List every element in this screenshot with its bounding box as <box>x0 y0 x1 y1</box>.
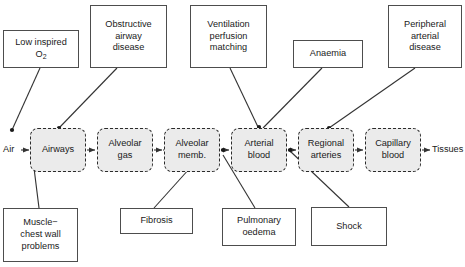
stage-label-regional-arteries-line1: Regional <box>308 138 344 150</box>
stage-label-arterial-blood-line1: Arterial <box>244 138 273 150</box>
cause-link-obstructive-airway-disease-to-airways <box>59 68 117 128</box>
stage-box-alveolar-gas[interactable]: Alveolar gas <box>97 128 153 172</box>
cause-link-peripheral-arterial-disease-to-regional-arteries <box>329 68 415 128</box>
cause-label-shock-line1: Shock <box>336 221 362 233</box>
junction-dot-arterial-blood-left <box>288 148 292 152</box>
cause-label-pulmonary-oedema-line2: oedema <box>237 227 281 239</box>
cause-box-fibrosis[interactable]: Fibrosis <box>120 208 193 234</box>
cause-box-shock[interactable]: Shock <box>311 207 387 246</box>
cause-link-ventilation-perfusion-matching-to-arterial-blood <box>230 68 258 127</box>
cause-box-anaemia[interactable]: Anaemia <box>293 40 363 68</box>
cause-box-pulmonary-oedema[interactable]: Pulmonary oedema <box>222 208 296 246</box>
cause-link-low-inspired-o2-to-air <box>12 68 40 130</box>
stage-label-alveolar-memb-line2: memb. <box>175 150 208 162</box>
cause-label-ventilation-perfusion-matching-line3: matching <box>207 42 249 54</box>
stage-label-airways-line1: Airways <box>42 144 74 156</box>
cause-label-anaemia-line1: Anaemia <box>310 48 346 60</box>
stage-box-airways[interactable]: Airways <box>30 128 86 172</box>
stage-label-regional-arteries-line2: arteries <box>308 150 344 162</box>
junction-dot-air <box>10 128 14 132</box>
cause-link-fibrosis-to-alveolar-memb <box>154 168 190 208</box>
cause-label-obstructive-airway-disease-line3: disease <box>105 42 151 54</box>
cause-label-peripheral-arterial-disease-line2: arterial <box>404 31 446 43</box>
cause-label-peripheral-arterial-disease-line3: disease <box>404 42 446 54</box>
cause-link-anaemia-to-arterial-blood <box>263 68 322 128</box>
o2-subscript: 2 <box>43 53 47 60</box>
cause-box-ventilation-perfusion-matching[interactable]: Ventilation perfusion matching <box>190 5 267 68</box>
cause-label-muscle-chest-wall-problems-line3: problems <box>20 241 60 253</box>
stage-label-capillary-blood-line2: blood <box>375 150 411 162</box>
cause-label-peripheral-arterial-disease-line1: Peripheral <box>404 19 446 31</box>
cause-label-low-inspired-o2-line2: O2 <box>15 49 67 61</box>
cause-label-obstructive-airway-disease-line1: Obstructive <box>105 19 151 31</box>
cause-box-low-inspired-o2[interactable]: Low inspired O2 <box>3 30 79 68</box>
endpoint-label-air: Air <box>3 144 14 154</box>
cause-label-ventilation-perfusion-matching-line1: Ventilation <box>207 19 249 31</box>
stage-box-regional-arteries[interactable]: Regional arteries <box>298 128 354 172</box>
stage-label-alveolar-gas-line2: gas <box>108 150 141 162</box>
cause-box-muscle-chest-wall-problems[interactable]: Muscle− chest wall problems <box>3 208 78 262</box>
cause-label-fibrosis-line1: Fibrosis <box>140 215 172 227</box>
stage-label-alveolar-gas-line1: Alveolar <box>108 138 141 150</box>
cause-label-ventilation-perfusion-matching-line2: perfusion <box>207 31 249 43</box>
cause-label-low-inspired-o2-line1: Low inspired <box>15 37 67 49</box>
cause-label-muscle-chest-wall-problems-line2: chest wall <box>20 229 60 241</box>
diagram-canvas: Air Tissues Airways Alveolar gas Alveola… <box>0 0 465 267</box>
cause-box-obstructive-airway-disease[interactable]: Obstructive airway disease <box>90 5 167 68</box>
stage-box-arterial-blood[interactable]: Arterial blood <box>231 128 287 172</box>
o2-base: O <box>35 49 42 59</box>
stage-label-alveolar-memb-line1: Alveolar <box>175 138 208 150</box>
stage-box-capillary-blood[interactable]: Capillary blood <box>365 128 421 172</box>
junction-dot-alveolar-memb-right <box>221 148 225 152</box>
stage-label-capillary-blood-line1: Capillary <box>375 138 411 150</box>
cause-label-obstructive-airway-disease-line2: airway <box>105 31 151 43</box>
stage-box-alveolar-memb[interactable]: Alveolar memb. <box>164 128 220 172</box>
endpoint-label-tissues: Tissues <box>432 144 463 154</box>
cause-box-peripheral-arterial-disease[interactable]: Peripheral arterial disease <box>388 5 462 68</box>
stage-label-arterial-blood-line2: blood <box>244 150 273 162</box>
cause-label-muscle-chest-wall-problems-line1: Muscle− <box>20 217 60 229</box>
cause-label-pulmonary-oedema-line1: Pulmonary <box>237 215 281 227</box>
